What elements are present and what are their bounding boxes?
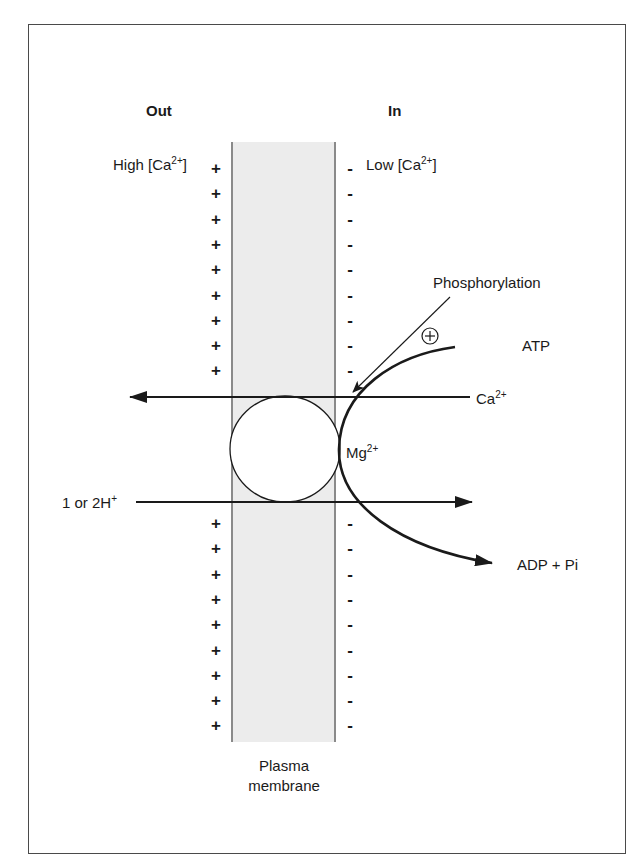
phosphorylation-arrow bbox=[353, 297, 450, 392]
stimulation-icon bbox=[422, 328, 438, 344]
pump-protein bbox=[230, 396, 340, 502]
atp-label: ATP bbox=[522, 338, 550, 353]
calcium-label: Ca2+ bbox=[476, 391, 507, 406]
membrane-caption-line2: membrane bbox=[244, 776, 324, 796]
membrane-caption-line1: Plasma bbox=[244, 756, 324, 776]
proton-label: 1 or 2H+ bbox=[62, 495, 117, 510]
membrane-caption: Plasma membrane bbox=[244, 756, 324, 796]
phosphorylation-label: Phosphorylation bbox=[433, 275, 541, 290]
products-label: ADP + Pi bbox=[517, 557, 578, 572]
magnesium-label: Mg2+ bbox=[346, 445, 378, 460]
